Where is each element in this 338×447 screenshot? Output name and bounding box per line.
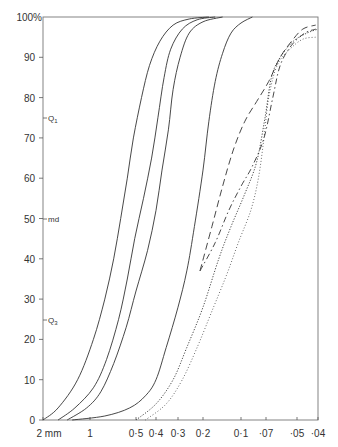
x-tick-label: ·04 (311, 428, 326, 439)
y-tick-label: 0 (29, 415, 35, 426)
y-tick-label: 100% (16, 12, 42, 23)
y-tick-label: 80 (24, 93, 36, 104)
y-tick-label: 30 (24, 294, 36, 305)
x-tick-label: 0·5 (129, 428, 144, 439)
curve-sparse-dotted (145, 37, 315, 420)
curve-series (43, 17, 318, 420)
curve-dense-dotted (136, 29, 318, 420)
x-tick-label: 0·4 (149, 428, 164, 439)
y-tick-label: 70 (24, 133, 36, 144)
x-tick-label: 0·3 (171, 428, 186, 439)
curve-solid-3 (67, 17, 222, 420)
y-axis: 0102030405060708090100% (16, 12, 43, 426)
curve-dash-dot (200, 29, 316, 271)
x-tick-label: 2 mm (37, 428, 62, 439)
y-tick-label: 10 (24, 375, 36, 386)
x-tick-label: ·07 (259, 428, 274, 439)
grain-size-cumulative-chart: 0102030405060708090100% 2 mm10·50·40·30·… (0, 0, 338, 447)
x-tick-label: 0·1 (234, 428, 249, 439)
q1-label: Q1 (48, 114, 58, 124)
y-tick-label: 60 (24, 173, 36, 184)
curve-dashed (200, 25, 316, 271)
q3-label: Q3 (48, 316, 58, 326)
median-label: md (48, 215, 59, 224)
x-tick-label: 1 (87, 428, 93, 439)
curve-solid-1 (43, 17, 209, 420)
plot-frame (43, 17, 318, 420)
quartile-annotations: Q1 md Q3 (43, 114, 59, 326)
x-tick-label: 0·2 (196, 428, 211, 439)
y-tick-label: 50 (24, 214, 36, 225)
y-tick-label: 90 (24, 52, 36, 63)
curve-solid-2 (58, 17, 215, 420)
x-tick-label: ·05 (290, 428, 305, 439)
y-tick-label: 20 (24, 334, 36, 345)
y-tick-label: 40 (24, 254, 36, 265)
